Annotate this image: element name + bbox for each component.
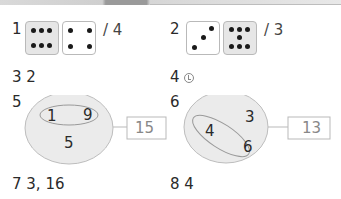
problem-3-answer: 2 (26, 68, 36, 86)
result-box-value: 15 (135, 121, 154, 136)
problem-2-number: 2 (170, 22, 180, 37)
inner-value-1: 1 (47, 109, 57, 124)
problem-7-number: 7 (12, 175, 22, 193)
circled-letter-icon (184, 73, 194, 83)
problem-3-number: 3 (12, 68, 22, 86)
die-three (186, 21, 220, 55)
outer-value: 5 (64, 136, 74, 151)
inner-value-2: 6 (243, 140, 253, 155)
problem-1-number: 1 (12, 22, 22, 37)
die-eight (223, 21, 257, 55)
problem-3: 3 2 (12, 70, 36, 85)
problem-8: 8 4 (170, 177, 194, 192)
header-rule (150, 4, 341, 5)
result-box-value: 13 (302, 121, 321, 136)
inner-value-1: 4 (205, 124, 215, 139)
outer-value: 3 (245, 110, 255, 125)
die-four (62, 21, 96, 55)
problem-1-answer: / 4 (103, 21, 122, 39)
problem-2-answer: / 3 (264, 21, 283, 39)
problem-7: 7 3, 16 (12, 177, 65, 192)
problem-4: 4 (170, 70, 194, 85)
problem-7-answer: 3, 16 (26, 175, 64, 193)
die-six (25, 21, 59, 55)
inner-value-2: 9 (83, 108, 93, 123)
problem-8-number: 8 (170, 175, 180, 193)
problem-4-number: 4 (170, 68, 180, 86)
problem-8-answer: 4 (184, 175, 194, 193)
